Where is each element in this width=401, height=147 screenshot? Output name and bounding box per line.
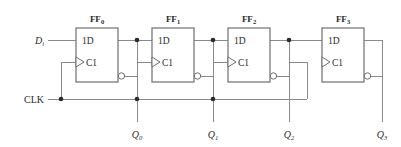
junction-dot-clk1 (135, 97, 140, 102)
flipflop-ff0: FF0 1D C1 (76, 14, 125, 82)
ff2-title: FF2 (242, 14, 256, 25)
label-output-q3: Q3 (377, 129, 388, 141)
wire-clk-riser-ff3 (304, 62, 307, 99)
label-clock-input: CLK (24, 94, 45, 105)
junction-dot-q1 (211, 38, 216, 43)
wire-clk-riser-ff1 (137, 62, 152, 99)
ff1-title: FF1 (166, 14, 180, 25)
ff1-data-pin-label: 1D (158, 36, 170, 46)
junction-dot-q2 (287, 38, 292, 43)
flipflop-ff3: FF3 1D C1 (322, 14, 371, 82)
label-output-q2: Q2 (284, 129, 295, 141)
ff0-data-pin-label: 1D (82, 36, 94, 46)
ff1-qbar-bubble-icon (194, 73, 200, 79)
label-data-input: Di (34, 35, 44, 47)
ff3-data-pin-label: 1D (328, 36, 340, 46)
ff3-clock-pin-label: C1 (332, 58, 343, 68)
ff0-clock-pin-label: C1 (86, 58, 97, 68)
wire-clk-riser-ff2 (213, 62, 228, 99)
junction-dot-clk0 (59, 97, 64, 102)
flipflop-ff2: FF2 1D C1 (228, 14, 277, 82)
ff2-data-pin-label: 1D (234, 36, 246, 46)
flipflop-ff1: FF1 1D C1 (152, 14, 201, 82)
ff0-qbar-bubble-icon (118, 73, 124, 79)
ff1-clock-pin-label: C1 (162, 58, 173, 68)
ff2-clock-pin-label: C1 (238, 58, 249, 68)
circuit-canvas: FF0 1D C1 FF1 1D C1 FF2 1D C1 (0, 0, 401, 147)
label-output-q1: Q1 (208, 129, 218, 141)
ff2-qbar-bubble-icon (270, 73, 276, 79)
ff3-title: FF3 (336, 14, 351, 25)
junction-dot-q0 (135, 38, 140, 43)
shift-register-diagram: FF0 1D C1 FF1 1D C1 FF2 1D C1 (0, 0, 401, 147)
ff3-qbar-bubble-icon (364, 73, 370, 79)
label-output-q0: Q0 (132, 129, 143, 141)
ff0-title: FF0 (90, 14, 104, 25)
wire-clk-riser-ff0 (61, 62, 76, 99)
junction-dot-clk2 (211, 97, 216, 102)
